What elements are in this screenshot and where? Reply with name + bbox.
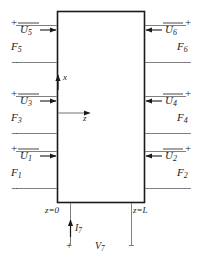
port2-minus-sign: − bbox=[185, 183, 191, 194]
port4-plus-sign: + bbox=[185, 88, 191, 99]
port7-plus-sign: + bbox=[66, 240, 72, 251]
port4-minus-sign: − bbox=[185, 128, 191, 139]
port1-plus-sign: + bbox=[11, 143, 17, 154]
z-axis-label: z bbox=[83, 114, 87, 123]
port2-force-label: F2 bbox=[177, 167, 188, 180]
left-boundary-label: z=0 bbox=[45, 206, 59, 215]
port5-plus-sign: + bbox=[11, 17, 17, 28]
port5-force-label: F5 bbox=[11, 41, 22, 54]
port7-minus-sign: − bbox=[128, 240, 134, 251]
network-block-outline bbox=[58, 12, 145, 203]
port2-plus-sign: + bbox=[185, 143, 191, 154]
port5-voltage-label: U5 bbox=[20, 24, 32, 37]
port3-voltage-label: U3 bbox=[20, 95, 32, 108]
port5-minus-sign: − bbox=[11, 57, 17, 68]
port4-force-label: F4 bbox=[177, 112, 188, 125]
port1-force-label: F1 bbox=[11, 167, 22, 180]
right-boundary-label: z=L bbox=[133, 206, 148, 215]
port6-voltage-label: U6 bbox=[165, 24, 177, 37]
port2-voltage-label: U2 bbox=[165, 150, 177, 163]
port1-voltage-label: U1 bbox=[20, 150, 32, 163]
port4-voltage-label: U4 bbox=[165, 95, 177, 108]
port6-plus-sign: + bbox=[185, 17, 191, 28]
port3-plus-sign: + bbox=[11, 88, 17, 99]
port3-force-label: F3 bbox=[11, 112, 22, 125]
port1-minus-sign: − bbox=[11, 183, 17, 194]
port3-minus-sign: − bbox=[11, 128, 17, 139]
port7-current-label: I7 bbox=[75, 223, 82, 235]
port6-force-label: F6 bbox=[177, 41, 188, 54]
x-axis-label: x bbox=[63, 73, 67, 82]
port6-minus-sign: − bbox=[185, 57, 191, 68]
port7-voltage-label: V7 bbox=[95, 241, 105, 253]
diagram-vector-layer bbox=[0, 0, 201, 259]
figure-canvas: + U5 F5 − + U6 F6 − + U3 F3 − + U4 F4 − … bbox=[0, 0, 201, 259]
